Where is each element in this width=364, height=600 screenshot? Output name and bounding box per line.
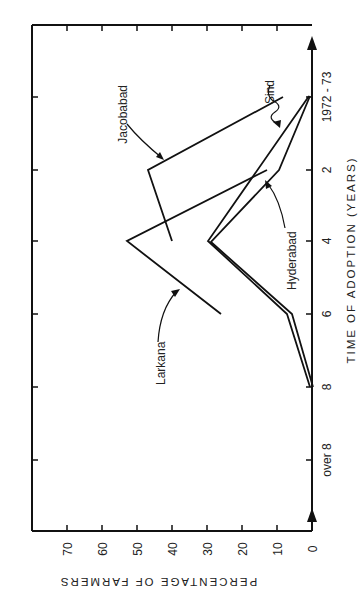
annotation-hyderabad: Hyderabad <box>265 180 299 290</box>
percentage-ticks <box>67 25 277 531</box>
svg-text:60: 60 <box>96 542 110 556</box>
time-tick-labels: 1972 - 73 2 4 6 8 over 8 <box>320 71 334 476</box>
series-larkana-line <box>127 170 267 314</box>
svg-text:20: 20 <box>236 542 250 556</box>
annotation-jacobabad: Jacobabad <box>116 85 164 160</box>
svg-text:70: 70 <box>61 542 75 556</box>
percentage-tick-labels: 0 10 20 30 40 50 60 70 <box>61 542 320 556</box>
svg-text:over 8: over 8 <box>320 443 334 477</box>
svg-text:50: 50 <box>131 542 145 556</box>
time-axis-arrow-up-icon <box>307 36 317 50</box>
svg-text:Larkana: Larkana <box>154 341 168 385</box>
svg-text:Sind: Sind <box>263 80 277 104</box>
svg-text:8: 8 <box>320 383 334 390</box>
svg-text:2: 2 <box>320 166 334 173</box>
svg-text:10: 10 <box>271 542 285 556</box>
svg-text:6: 6 <box>320 310 334 317</box>
svg-text:40: 40 <box>166 542 180 556</box>
y-axis-title: PERCENTAGE OF FARMERS <box>59 576 257 588</box>
annotation-sind: Sind <box>263 80 281 128</box>
x-axis-title: TIME OF ADOPTION (YEARS) <box>345 156 357 363</box>
svg-text:Jacobabad: Jacobabad <box>116 85 130 144</box>
svg-text:4: 4 <box>320 237 334 244</box>
annotation-larkana: Larkana <box>154 289 180 385</box>
svg-text:0: 0 <box>306 545 320 552</box>
svg-text:30: 30 <box>201 542 215 556</box>
svg-text:1972 - 73: 1972 - 73 <box>320 71 334 122</box>
time-axis-arrow-icon <box>307 508 317 522</box>
chart-canvas: 0 10 20 30 40 50 60 70 PERCENTAGE OF FAR… <box>0 0 364 600</box>
svg-text:Hyderabad: Hyderabad <box>285 231 299 290</box>
